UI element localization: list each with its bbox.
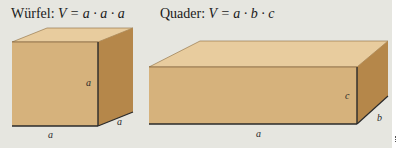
cube-height-label: a xyxy=(86,77,91,88)
cuboid-top-face xyxy=(149,41,388,67)
cube-depth-label: a xyxy=(117,116,122,127)
solids-illustration: a a a c b a xyxy=(0,0,400,148)
cuboid-height-label: c xyxy=(345,90,350,101)
cube-shape: a a a xyxy=(12,28,133,140)
cuboid-shape: c b a xyxy=(149,41,388,139)
cuboid-depth-label: b xyxy=(377,112,382,123)
cube-side-face xyxy=(98,28,133,126)
cuboid-width-label: a xyxy=(256,128,261,139)
cuboid-front-face xyxy=(149,67,357,124)
cube-width-label: a xyxy=(48,129,53,140)
edge-mark xyxy=(395,136,398,142)
